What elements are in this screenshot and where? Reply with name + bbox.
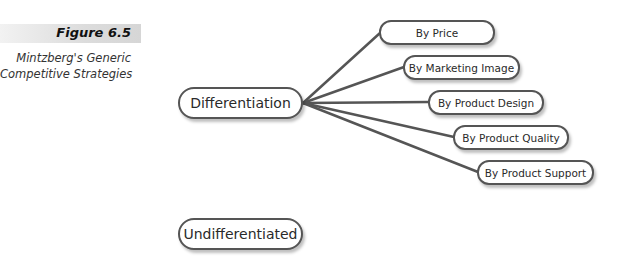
node-label: By Marketing Image: [409, 62, 514, 74]
node-label: By Product Quality: [462, 132, 559, 144]
node-by-product-support: By Product Support: [477, 160, 594, 185]
node-label: By Product Support: [485, 167, 586, 179]
node-by-price: By Price: [379, 20, 495, 45]
node-undifferentiated: Undifferentiated: [178, 218, 303, 250]
node-differentiation: Differentiation: [178, 87, 303, 119]
node-label: By Product Design: [438, 97, 534, 109]
node-label: Undifferentiated: [183, 226, 297, 242]
connector-by-product-design: [303, 102, 429, 103]
connector-by-marketing-image: [303, 67, 404, 103]
node-by-product-quality: By Product Quality: [453, 125, 569, 150]
node-label: Differentiation: [190, 95, 291, 111]
node-by-product-design: By Product Design: [428, 90, 544, 115]
node-by-marketing-image: By Marketing Image: [403, 55, 520, 80]
node-label: By Price: [416, 27, 458, 39]
connector-by-price: [303, 33, 380, 103]
